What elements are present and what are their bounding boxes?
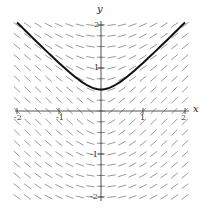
slope-segment [107,56,115,58]
slope-segment [108,131,116,134]
slope-segment [14,55,20,61]
slope-segment [171,65,177,71]
slope-segment [172,119,178,125]
slope-segment [24,76,30,82]
slope-segment [129,163,136,167]
slope-segment [35,55,42,60]
slope-segment [182,184,189,189]
slope-segment [56,97,62,103]
slope-segment [129,119,135,125]
slope-segment [45,184,52,188]
slope-segment [118,66,126,69]
slope-segment [77,87,84,92]
x-tick-label-neg2: -2 [14,114,22,122]
slope-segment [76,196,84,198]
slope-segment [66,45,74,48]
slope-segment [45,173,52,178]
slope-segment [25,97,31,103]
slope-segment [35,76,41,82]
slope-segment [45,44,52,49]
slope-segment [161,33,168,38]
slope-segment [46,97,52,103]
slope-segment [140,130,146,136]
slope-segment [45,195,52,199]
slope-segment [139,44,146,48]
slope-segment [182,195,189,200]
slope-segment [161,151,167,156]
slope-segment [150,23,157,27]
slope-segment [56,141,63,146]
slope-segment [151,119,157,125]
slope-segment [77,98,83,103]
slope-segment [87,131,95,134]
slope-segment [14,173,21,178]
slope-segment [161,76,167,82]
slope-segment [35,65,41,70]
slope-segment [182,173,189,178]
slope-segment [35,33,42,38]
slope-segment [34,23,41,27]
slope-segment [139,55,146,60]
y-tick-label-2: 2 [94,21,99,29]
slope-segment [118,141,125,145]
slope-segment [35,162,42,167]
slope-segment [45,87,51,93]
slope-segment [140,152,147,157]
slope-segment [66,163,73,167]
slope-segment [14,162,20,168]
slope-segment [139,184,147,188]
slope-segment [45,76,51,82]
slope-segment [129,87,135,92]
slope-segment [24,162,30,167]
slope-segment [107,186,115,187]
slope-segment [182,162,188,168]
x-tick-label-1: 1 [140,114,145,122]
slope-segment [55,23,63,26]
slope-segment [182,87,188,93]
slope-segment [182,55,188,61]
slope-segment [76,56,84,59]
slope-segment [150,173,157,178]
y-axis-label: y [97,4,103,14]
slope-segment [129,55,136,59]
slope-segment [139,195,147,198]
slope-segment [171,23,178,28]
slope-segment [76,174,84,177]
slope-segment [118,35,126,37]
slope-segment [129,34,137,37]
slope-segment [107,78,115,81]
slope-segment [35,87,41,93]
slope-field-plot [0,0,214,213]
slope-segment [182,97,188,103]
slope-segment [45,141,51,147]
slope-segment [24,151,30,157]
slope-segment [35,130,41,136]
slope-segment [14,184,21,189]
slope-segment [66,174,74,177]
slope-segment [150,65,157,70]
slope-segment [25,119,31,125]
slope-segment [66,130,72,135]
slope-segment [14,65,20,71]
slope-segment [66,97,72,103]
slope-segment [151,97,157,103]
slope-segment [160,23,167,27]
slope-segment [118,24,126,26]
slope-segment [55,195,63,198]
slope-segment [118,45,126,48]
slope-segment [66,185,74,188]
slope-segment [86,35,94,36]
slope-segment [107,164,115,166]
slope-segment [66,55,73,59]
slope-segment [119,130,126,135]
slope-segment [182,140,188,146]
slope-segment [77,130,84,135]
slope-segment [56,76,63,81]
slope-segment [150,34,157,38]
slope-segment [45,65,52,70]
slope-segment [150,130,156,136]
slope-segment [76,66,84,69]
slope-segment [161,184,168,189]
slope-segment [107,35,115,36]
y-tick-label-neg2: -2 [90,193,98,201]
